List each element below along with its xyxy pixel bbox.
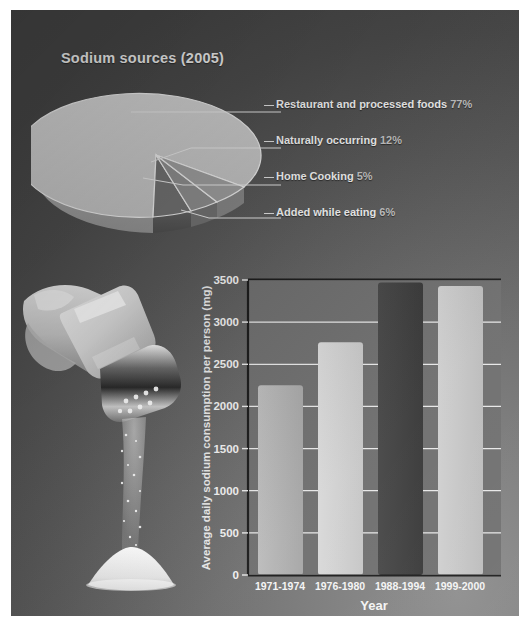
pie-callout-percent: 12% (380, 134, 402, 146)
salt-pile (86, 547, 176, 591)
leader-line-stub (264, 177, 274, 178)
bar-1976-1980 (318, 342, 363, 575)
pie-callout-home-cooking: Home Cooking 5% (276, 170, 373, 182)
salt-shaker-illustration (22, 265, 190, 615)
x-tick-label: 1988-1994 (375, 580, 425, 592)
bar-1988-1994 (378, 283, 423, 576)
pie-callout-percent: 6% (379, 206, 395, 218)
bar-1999-2000 (438, 286, 483, 575)
y-tick-labels: 0 500 1000 1500 2000 2500 3000 3500 (213, 274, 239, 581)
x-tick-label: 1999-2000 (435, 580, 485, 592)
x-tick-label: 1976-1980 (315, 580, 365, 592)
salt-stream (121, 417, 146, 551)
pie-chart-section: Sodium sources (2005) (11, 10, 519, 240)
y-axis-title: Average daily sodium consumption per per… (200, 286, 212, 571)
pie-svg (31, 70, 281, 240)
x-tick-label: 1971-1974 (255, 580, 305, 592)
y-tick-label: 0 (233, 569, 239, 581)
infographic-page: Sodium sources (2005) (0, 0, 530, 627)
bar-1971-1974 (258, 385, 303, 575)
x-axis-title: Year (360, 598, 387, 613)
y-tick-label: 3500 (213, 274, 239, 286)
leader-line-stub (264, 141, 274, 142)
pie-callout-name: Restaurant and processed foods (276, 98, 447, 110)
pie-callout-name: Naturally occurring (276, 134, 377, 146)
pie-chart-graphic (31, 70, 281, 240)
bar-chart-svg: 0 500 1000 1500 2000 2500 3000 3500 1971… (196, 260, 516, 616)
y-tick-label: 500 (220, 527, 239, 539)
infographic-panel: Sodium sources (2005) (11, 10, 519, 616)
y-tick-label: 2000 (213, 400, 239, 412)
pie-chart-title: Sodium sources (2005) (61, 50, 224, 66)
pie-callout-name: Home Cooking (276, 170, 354, 182)
leader-line-stub (264, 105, 274, 106)
leader-line-stub (264, 213, 274, 214)
bar-chart-section: 0 500 1000 1500 2000 2500 3000 3500 1971… (196, 260, 516, 616)
pie-callout-percent: 77% (450, 98, 472, 110)
y-tick-label: 3000 (213, 316, 239, 328)
pie-callout-percent: 5% (357, 170, 373, 182)
x-tick-labels: 1971-1974 1976-1980 1988-1994 1999-2000 (255, 580, 485, 592)
pie-callout-naturally-occurring: Naturally occurring 12% (276, 134, 402, 146)
y-tick-label: 2500 (213, 358, 239, 370)
pie-callout-restaurant-processed-foods: Restaurant and processed foods 77% (276, 98, 472, 110)
y-tick-label: 1500 (213, 443, 239, 455)
pie-callout-added-while-eating: Added while eating 6% (276, 206, 395, 218)
y-tick-label: 1000 (213, 485, 239, 497)
pie-callout-name: Added while eating (276, 206, 376, 218)
salt-shaker-photo (22, 265, 190, 615)
